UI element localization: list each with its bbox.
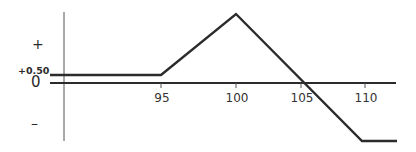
y-positive-label: +: [32, 36, 44, 52]
x-tick-95: 95: [154, 91, 169, 105]
y-zero-label: 0: [31, 73, 41, 91]
y-negative-label: –: [31, 115, 38, 131]
x-tick-105: 105: [291, 91, 314, 105]
x-tick-110: 110: [355, 91, 378, 105]
payoff-line: [50, 14, 397, 141]
payoff-chart: [0, 0, 416, 152]
x-tick-100: 100: [226, 91, 249, 105]
